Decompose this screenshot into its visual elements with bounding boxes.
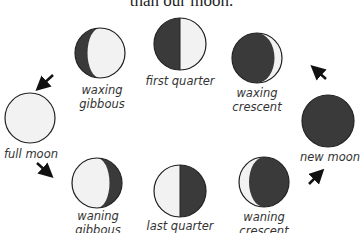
moon-phase-diagram — [0, 0, 363, 233]
arrow-waning-crescent-to-new — [309, 174, 319, 184]
label-full-moon: full moon — [0, 147, 62, 161]
label-last-quarter: last quarter — [140, 219, 220, 233]
label-waxing-crescent: waxing crescent — [227, 86, 287, 114]
waxing-gibbous-lit-region — [88, 28, 125, 78]
waxing-gibbous-moon — [75, 28, 125, 78]
waning-crescent-moon — [239, 157, 289, 207]
label-first-quarter: first quarter — [140, 74, 220, 88]
first-quarter-lit-region — [180, 18, 206, 70]
last-quarter-lit-region — [154, 165, 180, 217]
first-quarter-moon — [154, 18, 206, 70]
new-moon-moon — [302, 95, 354, 147]
full-moon-moon — [5, 93, 55, 143]
waning-gibbous-moon — [72, 158, 122, 208]
waxing-crescent-moon — [232, 33, 282, 83]
arrow-waxing-gibbous-to-full — [41, 75, 53, 86]
arrow-full-to-waning-gibbous — [37, 163, 48, 173]
label-waning-gibbous: waning gibbous — [68, 209, 128, 233]
last-quarter-moon — [154, 165, 206, 217]
label-new-moon: new moon — [297, 150, 363, 164]
arrow-new-to-waxing-crescent — [316, 70, 326, 79]
label-waxing-gibbous: waxing gibbous — [72, 83, 132, 111]
waning-gibbous-lit-region — [72, 158, 110, 208]
label-waning-crescent: waning crescent — [234, 210, 294, 233]
